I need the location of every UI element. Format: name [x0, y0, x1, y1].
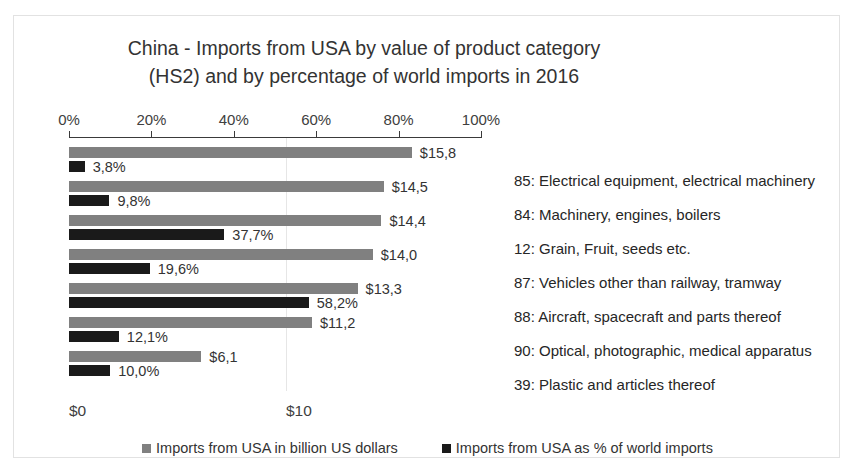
- bar-row: $6,110,0%: [69, 349, 511, 383]
- bar-value-label: $11,2: [320, 315, 355, 331]
- chart-frame: China - Imports from USA by value of pro…: [13, 15, 840, 458]
- bar-value-label: $14,0: [381, 247, 417, 263]
- bar-value-percent[interactable]: [69, 297, 309, 308]
- percent-axis-line: [69, 137, 481, 138]
- category-label: 39: Plastic and articles thereof: [514, 375, 855, 409]
- dollar-tick-label: $0: [69, 402, 86, 420]
- bar-percent-label: 3,8%: [93, 159, 126, 175]
- bar-row: $11,212,1%: [69, 315, 511, 349]
- bar-percent-label: 58,2%: [317, 295, 358, 311]
- dollar-tick-label: $10: [286, 402, 312, 420]
- percent-axis-tick: [151, 131, 152, 138]
- percent-axis-tick: [399, 131, 400, 138]
- bar-value-percent[interactable]: [69, 331, 119, 342]
- bar-percent-label: 12,1%: [127, 329, 168, 345]
- bar-row: $14,59,8%: [69, 179, 511, 213]
- category-label: 88: Aircraft, spacecraft and parts there…: [514, 307, 855, 341]
- bar-value-percent[interactable]: [69, 195, 109, 206]
- legend-swatch-icon: [442, 444, 451, 453]
- bar-value-dollars[interactable]: [69, 283, 358, 294]
- bar-value-dollars[interactable]: [69, 181, 384, 192]
- percent-tick-label: 20%: [136, 111, 166, 128]
- chart-title-line-1: China - Imports from USA by value of pro…: [14, 34, 714, 62]
- bar-value-label: $14,4: [389, 213, 425, 229]
- percent-axis-tick: [316, 131, 317, 138]
- bar-value-label: $13,3: [366, 281, 402, 297]
- percent-tick-label: 0%: [58, 111, 80, 128]
- bar-percent-label: 19,6%: [158, 261, 199, 277]
- legend-label: Imports from USA as % of world imports: [456, 440, 713, 456]
- percent-tick-label: 80%: [384, 111, 414, 128]
- bar-value-percent[interactable]: [69, 161, 85, 172]
- bar-percent-label: 10,0%: [118, 363, 159, 379]
- bar-value-label: $15,8: [420, 145, 456, 161]
- legend-label: Imports from USA in billion US dollars: [156, 440, 398, 456]
- percent-tick-label: 60%: [301, 111, 331, 128]
- category-label: 12: Grain, Fruit, seeds etc.: [514, 239, 855, 273]
- legend-swatch-icon: [142, 444, 151, 453]
- bar-row: $13,358,2%: [69, 281, 511, 315]
- category-label-list: 85: Electrical equipment, electrical mac…: [514, 171, 855, 409]
- chart-title: China - Imports from USA by value of pro…: [14, 34, 714, 90]
- category-label: 85: Electrical equipment, electrical mac…: [514, 171, 855, 205]
- plot-area: 0%20%40%60%80%100% $15,83,8%$14,59,8%$14…: [56, 111, 511, 396]
- bar-percent-label: 9,8%: [117, 193, 150, 209]
- bar-percent-label: 37,7%: [232, 227, 273, 243]
- bar-row: $15,83,8%: [69, 145, 511, 179]
- bar-value-percent[interactable]: [69, 263, 150, 274]
- category-label: 84: Machinery, engines, boilers: [514, 205, 855, 239]
- bar-value-dollars[interactable]: [69, 317, 312, 328]
- bar-value-dollars[interactable]: [69, 215, 381, 226]
- percent-tick-label: 40%: [219, 111, 249, 128]
- bar-value-label: $14,5: [392, 179, 428, 195]
- percent-axis-tick: [69, 131, 70, 138]
- bar-value-dollars[interactable]: [69, 249, 373, 260]
- category-label: 87: Vehicles other than railway, tramway: [514, 273, 855, 307]
- bar-row: $14,437,7%: [69, 213, 511, 247]
- bar-value-dollars[interactable]: [69, 147, 412, 158]
- bar-row: $14,019,6%: [69, 247, 511, 281]
- legend-entry[interactable]: Imports from USA as % of world imports: [442, 440, 713, 456]
- category-label: 90: Optical, photographic, medical appar…: [514, 341, 855, 375]
- chart-legend: Imports from USA in billion US dollarsIm…: [14, 440, 841, 456]
- chart-title-line-2: (HS2) and by percentage of world imports…: [14, 62, 714, 90]
- bar-value-percent[interactable]: [69, 229, 224, 240]
- percent-axis-tick: [481, 131, 482, 138]
- bar-value-percent[interactable]: [69, 365, 110, 376]
- bar-value-dollars[interactable]: [69, 351, 201, 362]
- dollar-axis: $0$10: [56, 402, 511, 424]
- legend-entry[interactable]: Imports from USA in billion US dollars: [142, 440, 398, 456]
- percent-tick-label: 100%: [462, 111, 500, 128]
- percent-axis-tick: [234, 131, 235, 138]
- bar-value-label: $6,1: [209, 349, 237, 365]
